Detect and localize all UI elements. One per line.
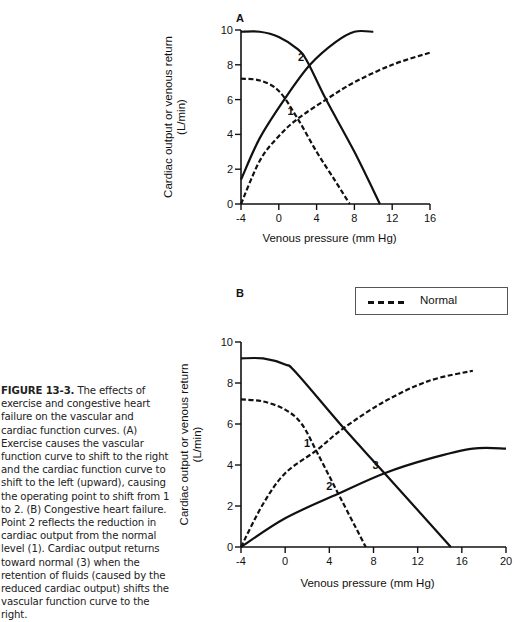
- x-tick-label: 12: [412, 555, 424, 567]
- series-line: [241, 358, 451, 547]
- x-tick-label: 16: [424, 212, 436, 224]
- y-tick-label: 0: [227, 541, 233, 553]
- x-tick-label: -4: [236, 212, 246, 224]
- y-tick-label: 8: [227, 59, 233, 71]
- series-line: [241, 53, 430, 204]
- y-axis-units: (L/min): [191, 426, 203, 462]
- series-line: [241, 399, 366, 547]
- y-tick-label: 2: [227, 500, 233, 512]
- y-axis-title: Cardiac output or venous return: [178, 364, 190, 526]
- operating-point-label: 3: [373, 459, 379, 471]
- y-axis-title: Cardiac output or venous return: [162, 36, 174, 198]
- x-tick-label: 8: [370, 555, 376, 567]
- x-tick-label: 20: [500, 555, 512, 567]
- chart-panel-B: B-40481216200246810Cardiac output or ven…: [178, 287, 512, 589]
- y-tick-label: 4: [227, 128, 233, 140]
- x-axis-title: Venous pressure (mm Hg): [300, 577, 434, 589]
- series-line: [241, 31, 373, 180]
- y-tick-label: 8: [227, 377, 233, 389]
- x-tick-label: 12: [386, 212, 398, 224]
- y-tick-label: 10: [221, 24, 233, 36]
- x-tick-label: 0: [276, 212, 282, 224]
- operating-point-label: 2: [326, 480, 332, 492]
- x-tick-label: 0: [282, 555, 288, 567]
- series-line: [241, 31, 380, 204]
- y-tick-label: 10: [221, 336, 233, 348]
- y-tick-label: 6: [227, 94, 233, 106]
- chart-panel-A: A-404812160246810Cardiac output or venou…: [162, 12, 436, 244]
- panel-label: B: [236, 287, 244, 299]
- operating-point-label: 2: [298, 51, 304, 63]
- operating-point-label: 1: [304, 437, 310, 449]
- x-tick-label: 4: [314, 212, 320, 224]
- x-axis-title: Venous pressure (mm Hg): [262, 232, 396, 244]
- panel-label: A: [236, 12, 244, 24]
- x-tick-label: 16: [456, 555, 468, 567]
- x-tick-label: -4: [236, 555, 246, 567]
- y-tick-label: 4: [227, 459, 233, 471]
- y-tick-label: 0: [227, 198, 233, 210]
- x-tick-label: 4: [326, 555, 332, 567]
- operating-point-label: 1: [288, 105, 294, 117]
- y-tick-label: 6: [227, 418, 233, 430]
- y-axis-units: (L/min): [175, 99, 187, 135]
- y-tick-label: 2: [227, 163, 233, 175]
- x-tick-label: 8: [351, 212, 357, 224]
- series-line: [241, 371, 473, 547]
